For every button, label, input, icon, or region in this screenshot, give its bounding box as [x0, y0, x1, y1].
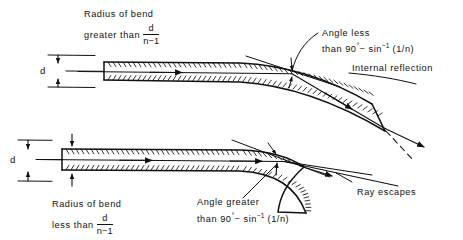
top-caption-line2-text: greater than [84, 30, 140, 40]
bottom-incident-ray [38, 160, 284, 162]
top-angle-minus-sin: − sin [359, 44, 381, 54]
bottom-angle-note-line1: Angle greater [197, 196, 259, 209]
bottom-fraction-numerator: d [97, 214, 113, 223]
internal-reflection-leader [349, 73, 416, 84]
ray-escapes-label: Ray escapes [357, 186, 416, 199]
top-diameter-label: d [40, 65, 45, 76]
top-fibre-upper-hatching [108, 62, 373, 95]
top-angle-leader [292, 33, 318, 71]
bottom-angle-leader [243, 164, 277, 198]
top-incident-ray [78, 72, 292, 74]
bottom-escaping-rays [284, 162, 398, 187]
top-exit-ray [384, 128, 424, 161]
bottom-caption-line1: Radius of bend [52, 198, 122, 211]
top-caption-fraction: dn−1 [143, 24, 159, 46]
bottom-diameter-dimension [18, 140, 52, 181]
bottom-angle-argument: (1/n) [268, 214, 290, 224]
figure-canvas: Radius of bend greater thandn−1 d Angle … [0, 0, 463, 240]
top-tangent-line [246, 56, 340, 87]
bottom-angle-note-line2: than 90°− sin−1 (1/n) [197, 210, 289, 226]
internal-reflection-label: Internal reflection [352, 62, 433, 75]
bottom-angle-minus-sin: − sin [234, 214, 256, 224]
top-caption-line1: Radius of bend [84, 8, 154, 21]
top-fraction-denominator: n−1 [143, 35, 159, 46]
top-fraction-numerator: d [143, 24, 159, 33]
top-fibre-wall-lower [104, 80, 385, 131]
top-angle-note-line1: Angle less [322, 27, 370, 40]
bottom-angle-prefix: than 90 [197, 214, 232, 224]
bottom-caption-line2-text: less than [52, 220, 94, 230]
top-angle-exponent: −1 [382, 42, 390, 49]
top-fibre-lower-hatching [108, 75, 382, 116]
top-angle-prefix: than 90 [322, 44, 357, 54]
bottom-fibre-upper-hatching [66, 149, 302, 167]
bottom-angle-exponent: −1 [257, 212, 265, 219]
bottom-fraction-denominator: n−1 [97, 225, 113, 236]
top-angle-argument: (1/n) [393, 44, 415, 54]
bottom-angle-arrows [268, 143, 277, 175]
top-angle-note-line2: than 90°− sin−1 (1/n) [322, 40, 414, 56]
bottom-diameter-label: d [10, 154, 15, 165]
bottom-fibre-wall-upper [62, 149, 304, 167]
top-reflected-ray [292, 74, 384, 128]
bottom-caption-line2: less thandn−1 [52, 214, 113, 236]
top-caption-line2: greater thandn−1 [84, 24, 159, 46]
bottom-caption-fraction: dn−1 [97, 214, 113, 236]
